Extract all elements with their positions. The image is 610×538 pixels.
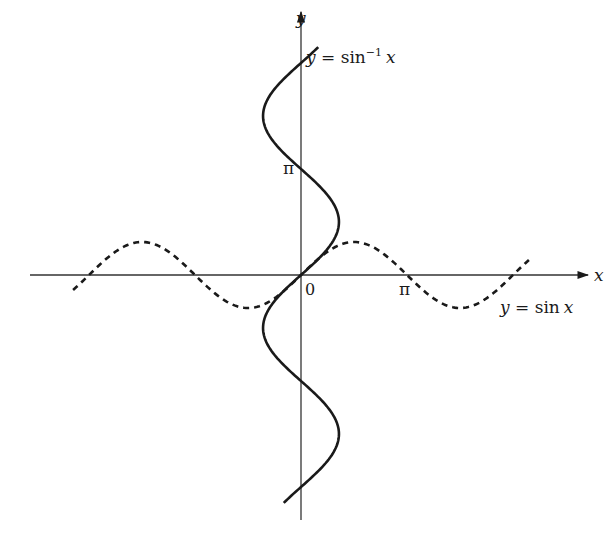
x-tick-pi: π [399, 279, 410, 299]
y-axis-label: y [295, 8, 306, 28]
sin-label: y = sinx [499, 297, 574, 317]
x-axis-label: x [594, 265, 604, 285]
y-tick-pi: π [283, 158, 294, 178]
origin-label: 0 [305, 280, 315, 299]
arcsin-label: y = sin−1x [305, 46, 396, 67]
graph-canvas: x y 0 π π y = sin−1x y = sinx [0, 0, 610, 538]
